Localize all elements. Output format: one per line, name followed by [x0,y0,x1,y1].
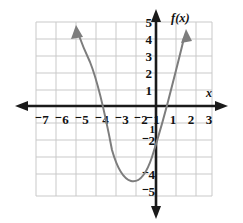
y-tick-5: 5 [146,15,153,30]
y-tick-4: 4 [146,32,153,47]
y-tick-2: 2 [146,66,153,81]
y-tick-3: 3 [146,49,153,64]
x-tick-3: 3 [206,112,213,127]
x-tick-1: 1 [170,112,177,127]
y-tick--2: ⁻2 [142,133,156,148]
x-tick--7: ⁻7 [35,112,49,127]
graph-canvas: f(x) x ⁻7 ⁻6 ⁻5 ⁻4 ⁻3 ⁻2 ⁻1 1 2 3 5 4 3 … [0,0,243,223]
y-axis-function-label: f(x) [171,11,190,25]
x-tick--6: ⁻6 [55,112,69,127]
x-axis-label: x [205,86,212,100]
y-tick--5: ⁻5 [142,184,156,199]
y-tick-1: 1 [146,83,153,98]
x-tick--3: ⁻3 [115,112,129,127]
x-tick--5: ⁻5 [75,112,89,127]
x-tick-2: 2 [188,112,195,127]
